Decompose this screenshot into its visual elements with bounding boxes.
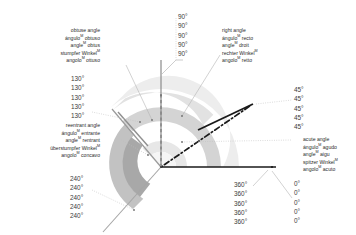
marker-dot-vertex bbox=[160, 166, 162, 168]
value-line: 0° bbox=[294, 198, 300, 207]
label-line-it: angoloM retto bbox=[222, 57, 258, 65]
label-right-angle: right angle ánguloM recto angleM droit r… bbox=[222, 27, 258, 65]
value-line: 240° bbox=[70, 211, 83, 220]
value-line: 45° bbox=[294, 94, 304, 103]
value-line: 0° bbox=[294, 179, 300, 188]
value-line: 130° bbox=[71, 93, 84, 102]
value-line: 240° bbox=[70, 183, 83, 192]
gender-marker-m: M bbox=[335, 158, 338, 162]
marker-dot-0 bbox=[271, 166, 273, 168]
value-line: 0° bbox=[294, 216, 300, 225]
value-stack-360-degrees: 360° 360° 360° 360° 360° bbox=[234, 180, 247, 226]
leader-0 bbox=[272, 171, 292, 198]
value-line: 90° bbox=[178, 21, 188, 30]
value-line: 45° bbox=[294, 85, 304, 94]
marker-dot-90 bbox=[160, 94, 162, 96]
value-line: 130° bbox=[71, 74, 84, 83]
label-line-it: angoloM concavo bbox=[50, 152, 100, 160]
label-line-fr: angleM obtus bbox=[60, 42, 100, 50]
value-line: 45° bbox=[294, 122, 304, 131]
value-line: 240° bbox=[70, 193, 83, 202]
value-line: 240° bbox=[70, 202, 83, 211]
label-line-fr: angleM aigu bbox=[303, 151, 338, 159]
value-line: 130° bbox=[71, 102, 84, 111]
value-line: 130° bbox=[71, 111, 84, 120]
label-line-fr: angleM rentrant bbox=[50, 137, 100, 145]
angle-diagram-page: obtuse angle ánguloM obtuso angleM obtus… bbox=[0, 0, 356, 235]
marker-dot-reentrant bbox=[147, 154, 149, 156]
value-line: 360° bbox=[234, 180, 247, 189]
value-stack-0-degrees: 0° 0° 0° 0° 0° bbox=[294, 179, 300, 225]
label-line-it: angoloM ottuso bbox=[60, 57, 100, 65]
label-obtuse-angle: obtuse angle ánguloM obtuso angleM obtus… bbox=[60, 27, 100, 65]
value-line: 45° bbox=[294, 104, 304, 113]
label-line-en: reentrant angle bbox=[50, 122, 100, 130]
label-reentrant-angle: reentrant angle ánguloM entrante angleM … bbox=[50, 122, 100, 160]
label-acute-angle: acute angle ánguloM agudo angleM aigu sp… bbox=[303, 136, 338, 174]
leader-360 bbox=[253, 170, 268, 186]
value-line: 90° bbox=[178, 49, 188, 58]
value-line: 0° bbox=[294, 188, 300, 197]
leader-90-to-ray bbox=[162, 60, 176, 74]
value-line: 0° bbox=[294, 207, 300, 216]
value-line: 90° bbox=[178, 12, 188, 21]
value-line: 360° bbox=[234, 199, 247, 208]
value-line: 90° bbox=[178, 31, 188, 40]
value-stack-45-degrees: 45° 45° 45° 45° 45° bbox=[294, 85, 304, 131]
marker-dot-right bbox=[181, 115, 183, 117]
label-line-fr: angleM droit bbox=[222, 42, 258, 50]
marker-dot-130 bbox=[139, 121, 141, 123]
value-line: 360° bbox=[234, 189, 247, 198]
marker-dot-240 bbox=[133, 209, 135, 211]
value-line: 90° bbox=[178, 40, 188, 49]
gender-marker-m: M bbox=[97, 144, 100, 148]
value-line: 130° bbox=[71, 83, 84, 92]
value-stack-240-degrees: 240° 240° 240° 240° 240° bbox=[70, 174, 83, 220]
value-line: 360° bbox=[234, 208, 247, 217]
label-line-it: angoloM acuto bbox=[303, 166, 338, 174]
value-line: 360° bbox=[234, 217, 247, 226]
gender-marker-m: M bbox=[255, 49, 258, 53]
value-line: 45° bbox=[294, 113, 304, 122]
value-line: 240° bbox=[70, 174, 83, 183]
marker-dot-obtuse bbox=[151, 119, 153, 121]
leader-45 bbox=[256, 100, 292, 104]
value-stack-130-degrees: 130° 130° 130° 130° 130° bbox=[71, 74, 84, 120]
value-stack-90-degrees: 90° 90° 90° 90° 90° bbox=[178, 12, 188, 58]
gender-marker-m: M bbox=[97, 49, 100, 53]
marker-dot-acute bbox=[181, 141, 183, 143]
